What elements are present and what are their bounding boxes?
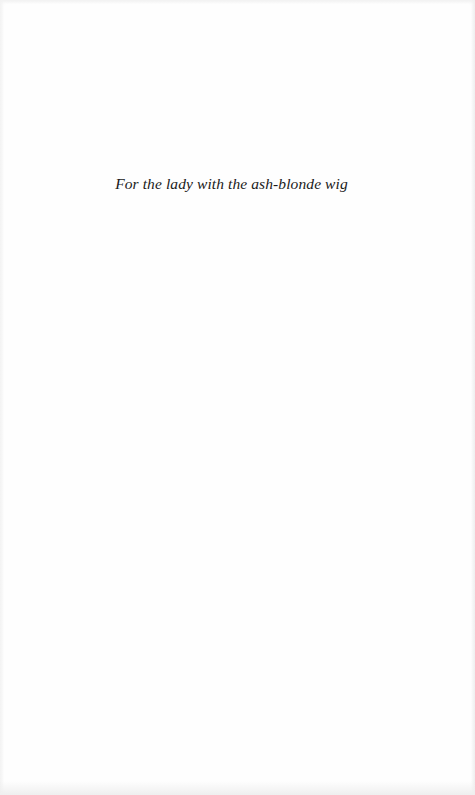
book-page: For the lady with the ash-blonde wig: [0, 0, 475, 795]
dedication-text: For the lady with the ash-blonde wig: [0, 175, 463, 193]
page-edge-right: [471, 0, 475, 795]
page-edge-bottom: [0, 781, 475, 795]
page-edge-top: [0, 0, 475, 4]
page-edge-left: [0, 0, 4, 795]
